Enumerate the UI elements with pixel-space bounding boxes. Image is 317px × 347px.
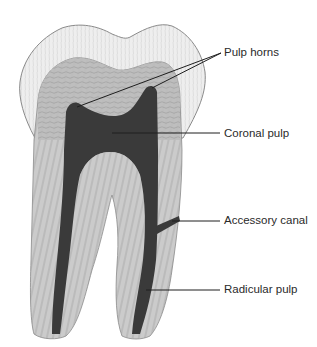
label-radicular-pulp: Radicular pulp [224, 284, 298, 296]
label-pulp-horns: Pulp horns [224, 47, 279, 59]
label-accessory-canal: Accessory canal [224, 215, 308, 227]
label-coronal-pulp: Coronal pulp [224, 128, 289, 140]
tooth-diagram: Pulp horns Coronal pulp Accessory canal … [0, 0, 317, 347]
